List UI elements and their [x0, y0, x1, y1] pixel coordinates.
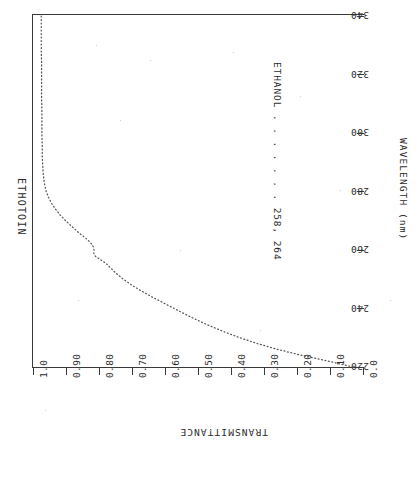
transmittance-tick: [66, 368, 67, 375]
scan-artifact: [300, 96, 301, 97]
transmittance-tick: [33, 368, 34, 375]
scan-artifact: [210, 430, 211, 431]
page-title: ETHOTOIN: [16, 178, 27, 236]
transmittance-tick: [99, 368, 100, 375]
scan-artifact: [340, 190, 341, 191]
transmittance-tick-label: 0.50: [203, 344, 214, 378]
transmittance-tick: [297, 368, 298, 375]
scan-artifact: [233, 52, 234, 53]
transmittance-tick-label: 1.0: [38, 344, 49, 378]
wavelength-tick-label: 340: [341, 10, 369, 21]
transmittance-tick-label: 0.80: [104, 344, 115, 378]
scan-artifact: [45, 410, 46, 411]
transmittance-tick-label: 0.70: [137, 344, 148, 378]
transmittance-tick: [198, 368, 199, 375]
scan-artifact: [390, 300, 391, 301]
wavelength-tick-label: 260: [341, 244, 369, 255]
scan-artifact: [180, 250, 181, 251]
transmittance-tick-label: 0.90: [71, 344, 82, 378]
scan-artifact: [96, 45, 97, 46]
transmittance-tick-label: 0.30: [269, 344, 280, 378]
transmittance-tick: [330, 368, 331, 375]
transmittance-tick-label: 0.40: [236, 344, 247, 378]
transmittance-tick-label: 0.60: [170, 344, 181, 378]
transmittance-tick: [132, 368, 133, 375]
transmittance-tick: [231, 368, 232, 375]
wavelength-tick-label: 240: [341, 303, 369, 314]
wavelength-axis-title: WAVELENGTH (nm): [398, 138, 409, 240]
wavelength-tick-label: 320: [341, 69, 369, 80]
scan-artifact: [78, 300, 79, 301]
legend-annotation: ETHANOL . . . . . . . 258, 264: [272, 62, 283, 261]
transmittance-tick: [363, 368, 364, 375]
transmittance-tick: [165, 368, 166, 375]
scan-artifact: [150, 60, 151, 61]
transmittance-tick-label: 0.0: [368, 344, 379, 378]
transmittance-tick-label: 0.10: [335, 344, 346, 378]
scan-artifact: [260, 330, 261, 331]
transmittance-tick-label: 0.20: [302, 344, 313, 378]
transmittance-axis-title: TRANSMITTANCE: [179, 427, 268, 438]
wavelength-tick-label: 280: [341, 186, 369, 197]
spectrum-figure: 340320300280260240220 WAVELENGTH (nm) 1.…: [0, 0, 419, 477]
scan-artifact: [120, 120, 121, 121]
transmittance-tick: [264, 368, 265, 375]
plot-frame: [32, 14, 364, 368]
wavelength-tick-label: 300: [341, 127, 369, 138]
